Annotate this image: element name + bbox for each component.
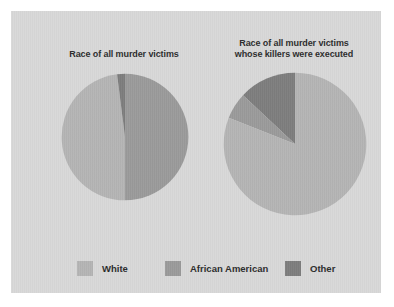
legend-item-african-american: African American: [165, 257, 268, 279]
pie-right-title: Race of all murder victims whose killers…: [203, 38, 385, 60]
legend-label-white: White: [102, 263, 128, 274]
legend-swatch-white: [77, 261, 93, 276]
legend-label-african-american: African American: [190, 263, 268, 274]
legend: White African American Other: [69, 257, 369, 279]
figure-root: Race of all murder victims Race of all m…: [0, 0, 394, 307]
legend-label-other: Other: [310, 263, 335, 274]
legend-swatch-african-american: [165, 261, 181, 276]
pie-slice-white: [62, 74, 125, 200]
pie-chart-all-victims: [61, 73, 189, 201]
legend-swatch-other: [285, 261, 301, 276]
pie-slice-african-american: [125, 74, 188, 201]
pie-left-title: Race of all murder victims: [34, 49, 214, 60]
chart-panel: Race of all murder victims Race of all m…: [11, 11, 381, 293]
pie-left-svg: [61, 73, 189, 201]
legend-item-white: White: [77, 257, 128, 279]
legend-item-other: Other: [285, 257, 335, 279]
pie-right-svg: [223, 72, 367, 216]
pie-chart-killers-executed: [223, 72, 367, 216]
